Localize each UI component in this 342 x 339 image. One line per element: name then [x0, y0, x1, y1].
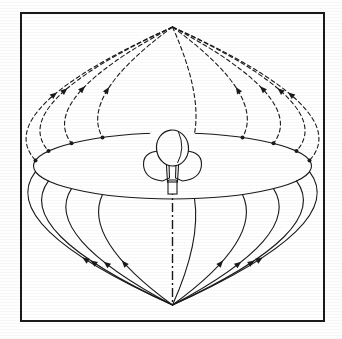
equator-node-0: [34, 158, 38, 162]
meridian-arc-lower-4: [173, 199, 196, 305]
sphere-diagram-canvas: [0, 0, 342, 339]
meridian-arc-upper-3: [98, 27, 173, 137]
equator-node-8: [308, 158, 312, 162]
figure-root: [0, 0, 342, 339]
meridian-arc-upper-4: [173, 27, 197, 133]
equator-node-6: [272, 141, 276, 145]
central-antenna-group: [142, 126, 203, 194]
meridian-arc-lower-0: [28, 172, 173, 305]
meridian-arc-lower-3: [99, 195, 173, 305]
meridian-arc-upper-6: [173, 27, 281, 143]
equator-node-3: [101, 135, 105, 139]
meridian-arc-lower-6: [173, 189, 280, 305]
meridian-arc-upper-2: [65, 27, 173, 143]
meridian-arc-upper-5: [173, 27, 248, 137]
meridian-arrow-upper-5: [233, 86, 242, 95]
equator-node-7: [295, 149, 299, 153]
meridian-arc-lower-5: [173, 195, 247, 305]
meridian-arc-lower-1: [42, 181, 173, 305]
antenna-mast-collar: [168, 182, 177, 194]
equator-node-1: [47, 149, 51, 153]
meridian-arrow-upper-3: [103, 86, 112, 95]
meridian-arc-lower-7: [173, 181, 304, 305]
equator-node-2: [70, 141, 74, 145]
equator-node-5: [241, 135, 245, 139]
meridian-arc-lower-2: [66, 189, 173, 305]
